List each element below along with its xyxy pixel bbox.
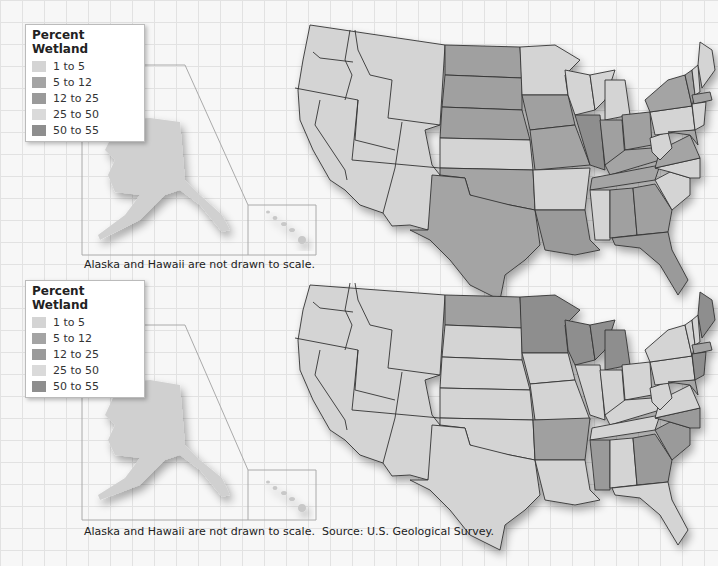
swatch-25-to-50 (32, 109, 46, 120)
legend-bottom: Percent Wetland 1 to 5 5 to 12 12 to 25 … (25, 280, 145, 398)
north-dakota (445, 45, 522, 78)
maine (698, 42, 715, 88)
source-caption: Source: U.S. Geological Survey. (322, 525, 494, 538)
louisiana (535, 210, 600, 255)
swatch-25-to-50 (32, 365, 46, 376)
south-dakota (442, 75, 522, 110)
nebraska-bottom (440, 357, 530, 390)
legend-item: 12 to 25 (32, 346, 138, 362)
map-bottom (82, 283, 715, 550)
legend-title: Percent Wetland (32, 28, 138, 56)
legend-label: 1 to 5 (53, 316, 85, 329)
new-jersey (692, 102, 706, 130)
nebraska (440, 107, 530, 140)
mississippi (590, 190, 610, 240)
swatch-5-to-12 (32, 77, 46, 88)
legend-item: 1 to 5 (32, 314, 138, 330)
iowa (522, 95, 575, 130)
new-jersey-bottom (692, 352, 706, 380)
western-states (298, 25, 445, 230)
inset-caption-bottom: Alaska and Hawaii are not drawn to scale… (84, 525, 315, 538)
maine-bottom (698, 292, 715, 338)
legend-item: 25 to 50 (32, 362, 138, 378)
legend-label: 50 to 55 (53, 124, 99, 137)
legend-label: 25 to 50 (53, 108, 99, 121)
swatch-5-to-12 (32, 333, 46, 344)
michigan-bottom (605, 330, 630, 370)
legend-item: 50 to 55 (32, 378, 138, 394)
louisiana-bottom (535, 460, 600, 505)
new-york (645, 75, 692, 112)
alabama (610, 188, 637, 238)
legend-label: 5 to 12 (53, 76, 92, 89)
legend-label: 12 to 25 (53, 92, 99, 105)
kansas-bottom (440, 388, 533, 420)
alaska-bottom (98, 380, 230, 500)
legend-item: 25 to 50 (32, 106, 138, 122)
legend-top: Percent Wetland 1 to 5 5 to 12 12 to 25 … (25, 24, 145, 142)
legend-label: 5 to 12 (53, 332, 92, 345)
iowa-bottom (522, 353, 575, 384)
mississippi-bottom (590, 440, 610, 490)
ohio (622, 112, 652, 150)
alabama-bottom (610, 438, 637, 488)
inset-caption-top: Alaska and Hawaii are not drawn to scale… (84, 258, 315, 271)
legend-label: 50 to 55 (53, 380, 99, 393)
legend-label: 12 to 25 (53, 348, 99, 361)
florida (612, 232, 688, 295)
arkansas (533, 168, 590, 210)
legend-label: 25 to 50 (53, 364, 99, 377)
swatch-12-to-25 (32, 349, 46, 360)
swatch-1-to-5 (32, 317, 46, 328)
ohio-bottom (622, 362, 652, 400)
south-dakota-bottom (442, 325, 522, 360)
new-york-bottom (645, 325, 692, 362)
legend-item: 5 to 12 (32, 74, 138, 90)
legend-item: 5 to 12 (32, 330, 138, 346)
florida-bottom (612, 482, 688, 545)
kansas (440, 138, 533, 170)
north-dakota-bottom (445, 295, 522, 328)
swatch-1-to-5 (32, 61, 46, 72)
legend-item: 12 to 25 (32, 90, 138, 106)
arkansas-bottom (533, 418, 590, 460)
hawaii-bottom (266, 481, 306, 513)
legend-label: 1 to 5 (53, 60, 85, 73)
legend-item: 1 to 5 (32, 58, 138, 74)
swatch-50-to-55 (32, 125, 46, 136)
hawaii (266, 211, 306, 245)
contiguous-us-bottom (295, 283, 715, 550)
legend-title: Percent Wetland (32, 284, 138, 312)
swatch-12-to-25 (32, 93, 46, 104)
michigan (605, 80, 630, 120)
legend-item: 50 to 55 (32, 122, 138, 138)
swatch-50-to-55 (32, 381, 46, 392)
contiguous-us-top (295, 25, 715, 300)
